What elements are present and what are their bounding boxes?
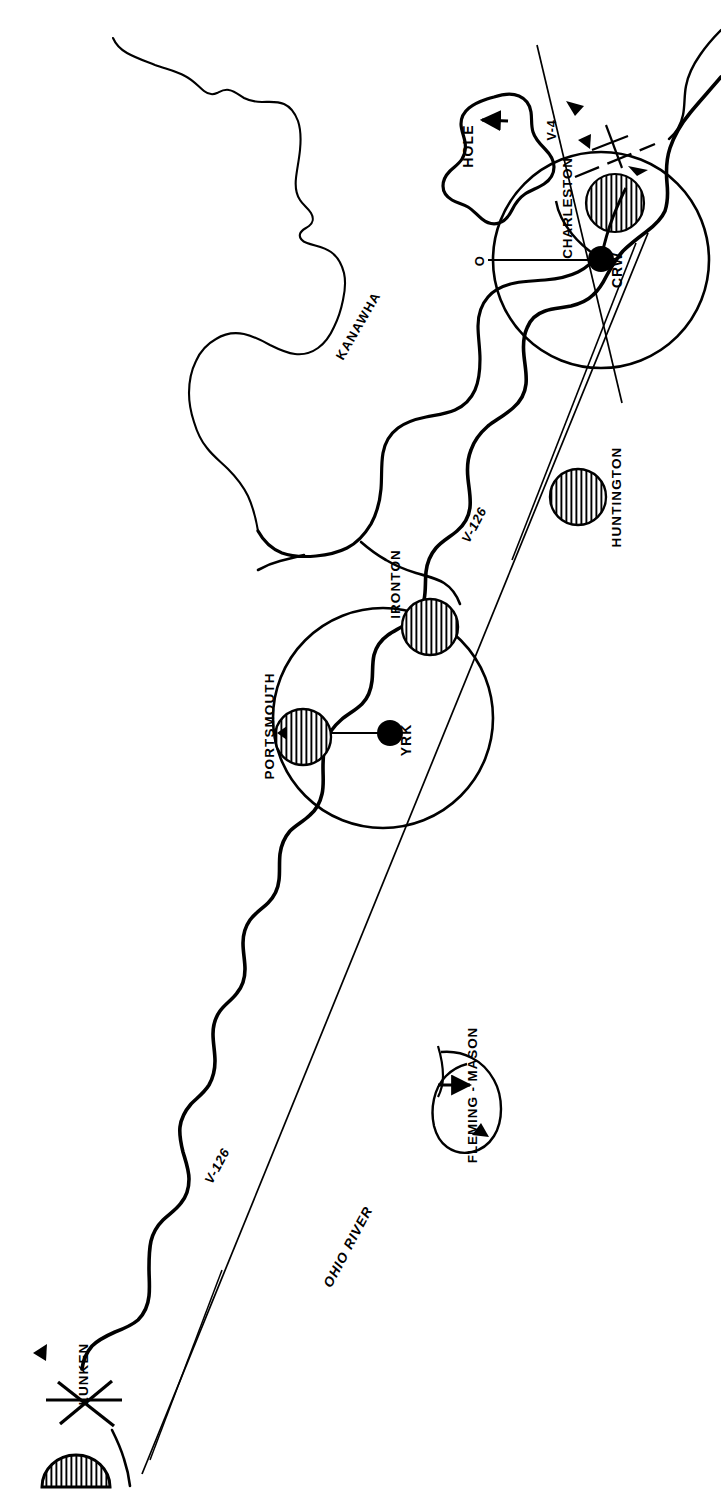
label-ironton: IRONTON xyxy=(388,549,403,619)
city-ironton xyxy=(402,599,458,655)
city-portsmouth xyxy=(275,709,331,765)
label-huntington: HUNTINGTON xyxy=(609,447,624,548)
label-portsmouth: PORTSMOUTH xyxy=(262,673,277,780)
city-huntington xyxy=(550,469,606,525)
label-airway-v4: V-4 xyxy=(545,119,559,140)
label-yrk: YRK xyxy=(398,724,414,757)
label-radial-origin: O xyxy=(472,256,487,267)
label-lunken: LUNKEN xyxy=(76,1343,91,1406)
route-map-canvas: HOLE CHARLESTON CRW O V-4 KANAWHA HUNTIN… xyxy=(0,0,721,1511)
label-hole: HOLE xyxy=(460,124,476,168)
map-drawing: HOLE CHARLESTON CRW O V-4 KANAWHA HUNTIN… xyxy=(0,0,721,1511)
label-crw: CRW xyxy=(609,252,625,288)
hole-arrow-icon xyxy=(482,120,508,121)
label-charleston: CHARLESTON xyxy=(560,157,575,259)
label-fleming-mason: FLEMING - MASON xyxy=(465,1027,480,1164)
